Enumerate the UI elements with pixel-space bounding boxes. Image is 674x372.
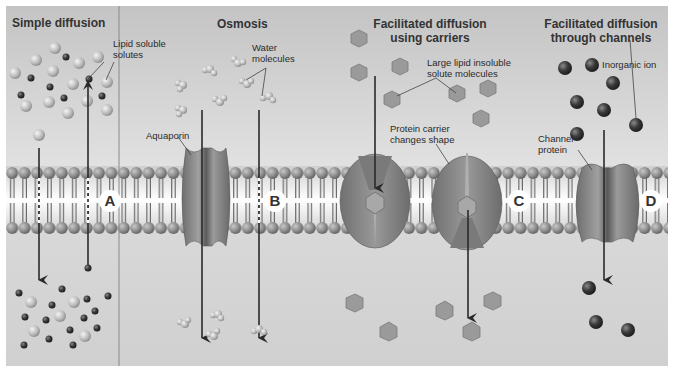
label-line: Channel <box>538 133 573 144</box>
label-protein-carrier: Protein carrier changes shape <box>390 123 454 145</box>
title-facilitated-channels: Facilitated diffusion through channels <box>541 17 661 45</box>
title-simple-diffusion: Simple diffusion <box>12 16 105 30</box>
badge-b: B <box>264 190 286 212</box>
solute-crossing <box>33 129 45 141</box>
aquaporin-protein <box>182 148 230 246</box>
label-line: solute molecules <box>427 68 511 79</box>
title-line: Facilitated diffusion <box>365 17 495 31</box>
title-line: using carriers <box>365 31 495 45</box>
label-line: Protein carrier <box>390 123 454 134</box>
title-line: through channels <box>541 31 661 45</box>
label-channel-protein: Channel protein <box>538 133 573 155</box>
badge-d: D <box>640 190 662 212</box>
title-osmosis: Osmosis <box>217 17 268 31</box>
label-lipid-soluble-solutes: Lipid soluble solutes <box>113 38 166 60</box>
label-line: protein <box>538 144 573 155</box>
label-line: solutes <box>113 49 166 60</box>
label-large-lipid-insoluble: Large lipid insoluble solute molecules <box>427 57 511 79</box>
title-line: Facilitated diffusion <box>541 17 661 31</box>
label-inorganic-ion: Inorganic ion <box>602 59 656 70</box>
label-line: Lipid soluble <box>113 38 166 49</box>
label-line: molecules <box>252 53 295 64</box>
title-facilitated-carriers: Facilitated diffusion using carriers <box>365 17 495 45</box>
badge-c: C <box>508 190 530 212</box>
label-aquaporin: Aquaporin <box>146 130 189 141</box>
label-line: changes shape <box>390 134 454 145</box>
label-water-molecules: Water molecules <box>252 42 295 64</box>
label-line: Large lipid insoluble <box>427 57 511 68</box>
label-line: Water <box>252 42 295 53</box>
diagram-canvas <box>0 0 674 372</box>
membrane-transport-diagram: Simple diffusion Osmosis Facilitated dif… <box>0 0 674 372</box>
channel-protein <box>576 164 639 242</box>
badge-a: A <box>99 190 121 212</box>
